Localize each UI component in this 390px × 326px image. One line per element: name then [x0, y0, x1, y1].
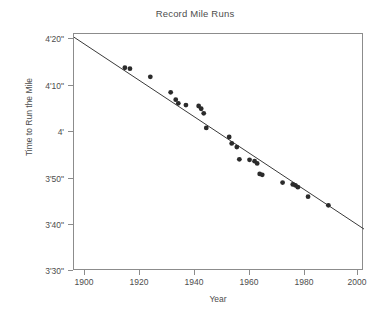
data-point — [201, 111, 206, 116]
data-point — [280, 180, 285, 185]
data-point — [260, 172, 265, 177]
chart-title: Record Mile Runs — [0, 8, 390, 19]
data-point — [234, 145, 239, 150]
plot-area — [73, 33, 363, 270]
y-axis-title: Time to Run the Mile — [24, 47, 34, 187]
trend-line — [74, 37, 364, 229]
data-point — [168, 90, 173, 95]
data-point — [176, 101, 181, 106]
data-point — [306, 194, 311, 199]
x-tick-label-1960: 1960 — [229, 277, 269, 287]
data-point-group — [122, 65, 330, 207]
data-point — [229, 141, 234, 146]
data-point — [128, 66, 133, 71]
y-tick-label-4-20: 4'20" — [0, 34, 64, 44]
x-tick-label-2000: 2000 — [337, 277, 377, 287]
data-point — [237, 157, 242, 162]
x-tick-label-1940: 1940 — [174, 277, 214, 287]
data-point — [148, 74, 153, 79]
y-tick-mark — [68, 270, 73, 271]
data-point — [204, 125, 209, 130]
x-tick-label-1920: 1920 — [119, 277, 159, 287]
x-axis-title: Year — [73, 294, 363, 304]
x-tick-label-1900: 1900 — [64, 277, 104, 287]
data-point — [122, 65, 127, 70]
data-point — [326, 203, 331, 208]
data-point — [184, 103, 189, 108]
data-point — [295, 185, 300, 190]
chart-figure: Record Mile Runs 4'20" 4'10" 4' 3'50" 3'… — [0, 0, 390, 326]
y-tick-label-3-30: 3'30" — [0, 266, 64, 276]
scatter-plot-svg — [74, 34, 364, 271]
x-tick-label-1980: 1980 — [284, 277, 324, 287]
data-point — [247, 157, 252, 162]
data-point — [255, 161, 260, 166]
y-tick-label-3-40: 3'40" — [0, 220, 64, 230]
data-point — [199, 106, 204, 111]
data-point — [227, 135, 232, 140]
